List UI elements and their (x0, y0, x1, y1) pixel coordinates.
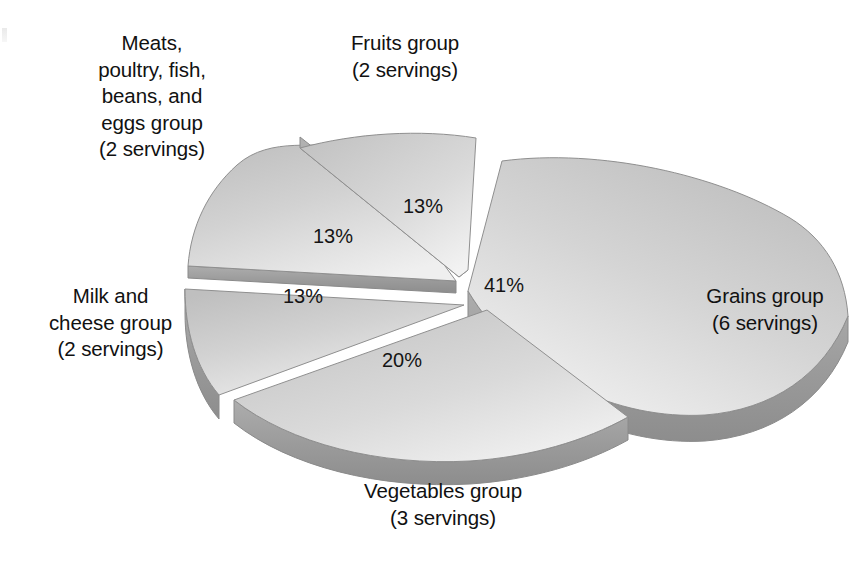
pie-value-label-grains: 41% (484, 275, 524, 295)
pie-category-label-milk-and-cheese: Milk and cheese group (2 servings) (8, 283, 213, 363)
pie-category-label-fruits: Fruits group (2 servings) (300, 30, 510, 83)
pie-value-label-meats: 13% (313, 226, 353, 246)
pie-value-label-fruits: 13% (403, 196, 443, 216)
pie-category-label-vegetables: Vegetables group (3 servings) (318, 478, 568, 531)
pie-category-label-meats: Meats, poultry, fish, beans, and eggs gr… (52, 30, 252, 163)
pie-value-label-vegetables: 20% (382, 350, 422, 370)
pie-category-label-grains: Grains group (6 servings) (672, 283, 858, 336)
pie-chart-figure: 13% 13% 13% 20% 41% Meats, poultry, fish… (0, 0, 858, 561)
pie-value-label-milk-and-cheese: 13% (283, 286, 323, 306)
